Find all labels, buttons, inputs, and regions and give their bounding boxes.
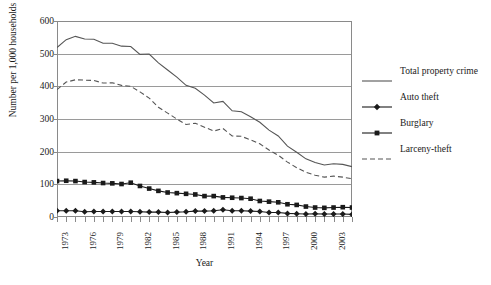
legend-swatch-icon [362,97,392,105]
series-marker-diamond [266,209,272,215]
x-axis-tick [269,217,270,222]
x-axis-tick [306,217,307,222]
series-marker-square [267,199,272,204]
series-marker-square [128,180,133,185]
x-axis-tick-label: 1994 [255,232,264,250]
y-axis-title: Number per 1,000 households [8,0,18,140]
x-axis-tick [75,217,76,222]
series-marker-square [193,192,198,197]
series-marker-diamond [128,208,134,214]
series-marker-square [350,205,352,210]
x-axis-tick [343,217,344,222]
series-marker-square [239,196,244,201]
x-axis-tick-label: 1997 [282,232,291,250]
x-axis-tick [168,217,169,222]
x-axis-tick [158,217,159,222]
x-axis-tick [131,217,132,222]
legend-swatch-icon [362,71,392,79]
x-axis-tick-label: 1988 [199,232,208,250]
series-marker-diamond [211,208,217,214]
x-axis-tick [324,217,325,222]
series-marker-diamond [275,209,281,215]
series-marker-diamond [257,208,263,214]
legend-label: Total property crime [400,66,478,77]
series-line [57,36,352,166]
x-axis-tick-labels: 1973197619791982198519881991199419972000… [57,224,352,254]
series-marker-square [165,190,170,195]
legend-swatch-icon [362,123,392,131]
x-axis-tick [260,217,261,222]
x-axis-tick [140,217,141,222]
series-marker-square [285,202,290,207]
series-marker-diamond [137,209,143,215]
x-axis-tick [186,217,187,222]
series-marker-square [211,194,216,199]
legend-item-total-property-crime: Total property crime [362,62,490,88]
x-axis-tick-label: 1979 [116,232,125,250]
x-axis-tick [149,217,150,222]
series-marker-diamond [82,209,88,215]
x-axis-tick [297,217,298,222]
series-marker-square [276,200,281,205]
series-marker-diamond [119,208,125,214]
x-axis-tick [195,217,196,222]
series-marker-square [175,191,180,196]
series-marker-square [110,181,115,186]
series-marker-square [147,186,152,191]
x-axis-tick [66,217,67,222]
x-axis-tick [251,217,252,222]
x-axis-tick [112,217,113,222]
x-axis-tick [278,217,279,222]
x-axis-tick [315,217,316,222]
x-axis-tick-label: 2003 [338,232,347,250]
y-axis-tick-labels: 0100200300400500600 [22,21,54,217]
x-axis-tick [223,217,224,222]
series-marker-square [294,203,299,208]
series-marker-diamond [57,208,60,214]
series-marker-diamond [165,209,171,215]
legend-item-auto-theft: Auto theft [362,88,490,114]
x-axis-tick-label: 1976 [89,232,98,250]
series-marker-diamond [100,208,106,214]
series-marker-square [64,178,69,183]
series-marker-square [248,196,253,201]
legend-item-larceny-theft: Larceny-theft [362,140,490,166]
series-marker-square [156,189,161,194]
series-marker-diamond [155,209,161,215]
x-axis-tick [122,217,123,222]
chart-legend: Total property crimeAuto theftBurglaryLa… [362,62,490,166]
series-marker-diamond [202,208,208,214]
series-marker-square [304,204,309,209]
legend-label: Burglary [400,118,434,129]
series-marker-square [92,180,97,185]
series-marker-square [138,184,143,189]
x-axis-tick [241,217,242,222]
x-axis-ticks [57,217,352,223]
legend-item-burglary: Burglary [362,114,490,140]
x-axis-tick [177,217,178,222]
data-series-layer [57,21,352,217]
x-axis-tick [103,217,104,222]
x-axis-tick-label: 1991 [227,232,236,250]
series-marker-diamond [91,208,97,214]
series-marker-square [101,181,106,186]
series-marker-diamond [183,209,189,215]
x-axis-tick [85,217,86,222]
series-marker-square [322,206,327,211]
series-marker-diamond [109,208,115,214]
series-marker-diamond [284,210,290,216]
series-marker-square [331,205,336,210]
x-axis-title: Year [57,258,352,268]
series-marker-diamond [238,208,244,214]
x-axis-tick [57,217,58,222]
series-marker-square [230,195,235,200]
series-marker-diamond [174,209,180,215]
x-axis-tick [334,217,335,222]
x-axis-tick-label: 1982 [144,232,153,250]
series-marker-diamond [220,207,226,213]
series-marker-square [313,205,318,210]
series-marker-diamond [146,209,152,215]
x-axis-tick-label: 1973 [61,232,70,250]
series-marker-diamond [229,208,235,214]
chart-container: Number per 1,000 households 010020030040… [0,0,491,285]
